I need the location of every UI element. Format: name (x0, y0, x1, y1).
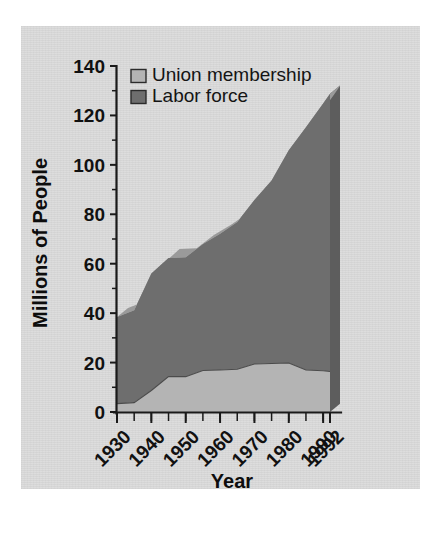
y-tick-label: 100 (73, 155, 105, 176)
legend-label-union-membership: Union membership (152, 64, 311, 85)
y-tick-label: 80 (84, 204, 105, 225)
y-tick-label: 20 (84, 353, 105, 374)
y-axis-title: Millions of People (29, 158, 51, 328)
y-tick-label: 120 (73, 105, 105, 126)
y-axis-ticks: 020406080100120140 (73, 56, 117, 423)
figure-root: 020406080100120140 193019401950196019701… (0, 0, 440, 542)
x-axis-title: Year (211, 470, 253, 492)
x-tick-label: 1930 (90, 426, 135, 471)
x-tick-label: 1940 (124, 426, 169, 471)
legend-swatch-union-membership (131, 70, 146, 83)
x-axis-ticks: 19301940195019601970198019901992 (90, 412, 348, 471)
chart-legend: Union membershipLabor force (131, 64, 311, 106)
y-tick-label: 0 (94, 402, 105, 423)
x-tick-label: 1970 (227, 426, 272, 471)
x-tick-label: 1950 (159, 426, 204, 471)
area-series-group (117, 85, 341, 412)
y-tick-label: 60 (84, 254, 105, 275)
y-tick-label: 140 (73, 56, 105, 77)
y-tick-label: 40 (84, 303, 105, 324)
three-d-right-wall (330, 85, 341, 412)
legend-swatch-labor-force (131, 91, 146, 104)
x-tick-label: 1960 (193, 426, 238, 471)
stacked-area-chart: 020406080100120140 193019401950196019701… (0, 0, 440, 542)
legend-label-labor-force: Labor force (152, 85, 248, 106)
x-tick-label: 1980 (262, 426, 307, 471)
area-labor-force (117, 94, 330, 404)
